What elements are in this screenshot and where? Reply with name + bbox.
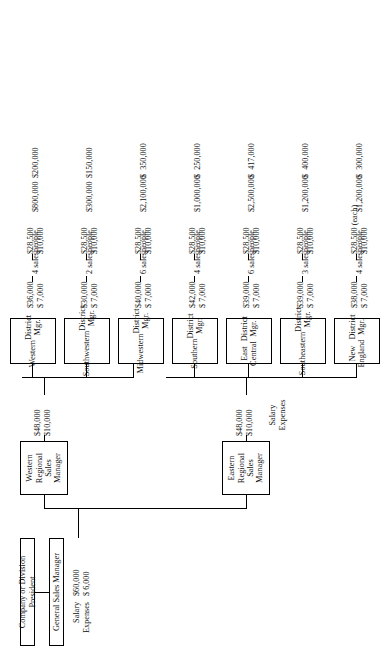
district-2-mgr-expenses: $ 7,000 (252, 283, 262, 308)
connector-western-region-to-bus (44, 377, 45, 395)
district-0-mgr-salary: $38,000 (350, 281, 360, 308)
district-5-mgr-salary: $30,000 (80, 281, 90, 308)
tick-mark (140, 276, 141, 282)
district-5-sales-total: $300,000 (85, 181, 95, 212)
district-0-mgr-expenses: $ 7,000 (360, 283, 370, 308)
box-president: Company or Division President (20, 538, 35, 646)
connector-bus-to-district-east-central (248, 364, 249, 378)
box-district-southeastern: SoutheasternDistrict Mgr. (280, 318, 326, 364)
district-1-sales-total: $1,200,000 (301, 175, 311, 212)
district-4-mgr-salary: $40,000 (134, 281, 144, 308)
western-region-expenses-value: $10,000 (43, 394, 53, 436)
district-6-average-per-salesperson: $200,000 (31, 147, 41, 178)
box-western-regional-manager: Western RegionalSales Manager (20, 441, 68, 495)
tick-mark (194, 276, 195, 282)
district-4-sales-total: $2,100,000 (139, 175, 149, 212)
box-district-western: WesternDistrict Mgr. (10, 318, 56, 364)
district-1-average-per-salesperson: $ 400,000 (301, 143, 311, 178)
eastern-region-expenses-value: $10,000 (245, 394, 255, 436)
eastern-region-salary-expenses-labels: Salary Expenses (268, 392, 287, 438)
box-district-southwestern: SouthwesternDistrict Mgr. (64, 318, 110, 364)
district-2-mgr-salary: $39,000 (242, 281, 252, 308)
western-district-bus (22, 377, 134, 378)
district-3-salesperson-salary: $28,500 (188, 227, 198, 254)
connector-bus-to-district-southeastern (302, 364, 303, 378)
box-eastern-regional-manager: Eastern RegionalSales Manager (222, 441, 270, 495)
tick-mark (356, 254, 357, 260)
box-district-east-central: East CentralDistrict Mgr. (226, 318, 272, 364)
general-sales-manager-label: General Sales Manager (52, 553, 61, 631)
district-1-mgr-salary: $39,000 (296, 281, 306, 308)
tick-mark (32, 254, 33, 260)
box-district-southern: SouthernDistrict Mgr. (172, 318, 218, 364)
connector-gsm-to-region-bus (78, 508, 79, 538)
gsm-salary-expenses-labels: Salary Expenses (72, 602, 91, 654)
tick-mark (86, 276, 87, 282)
district-5-salesperson-expenses: $10,000 (90, 227, 100, 254)
district-3-mgr-expenses: $ 7,000 (198, 283, 208, 308)
eastern-regional-manager-label: Eastern RegionalSales Manager (227, 444, 265, 492)
western-regional-manager-label: Western RegionalSales Manager (25, 444, 63, 492)
connector-bus-to-district-midwestern (133, 364, 134, 378)
connector-eastern-region-out (246, 435, 247, 441)
district-6-mgr-salary: $36,000 (26, 281, 36, 308)
eastern-region-salary-value: $48,000 (235, 394, 245, 436)
district-1-mgr-expenses: $ 7,000 (306, 283, 316, 308)
district-3-sales-total: $1,000,000 (193, 175, 203, 212)
connector-bus-to-district-southern (194, 364, 195, 378)
district-5-average-per-salesperson: $150,000 (85, 147, 95, 178)
org-chart-canvas: Company or Division President General Sa… (0, 0, 388, 660)
connector-president-to-gsm (35, 592, 49, 593)
district-5-salesperson-salary: $28,500 (80, 227, 90, 254)
tick-mark (302, 276, 303, 282)
connector-bus-to-eastern-region (246, 495, 247, 509)
box-district-new-england: New EnglandDistrict Mgr. (334, 318, 380, 364)
district-6-salesperson-expenses: $10,000 (36, 227, 46, 254)
district-0-sales-total: $1,200,000 (355, 175, 365, 212)
district-1-salesperson-salary: $28,500 (296, 227, 306, 254)
tick-mark (140, 254, 141, 260)
district-4-average-per-salesperson: $ 350,000 (139, 143, 149, 178)
org-chart: Company or Division President General Sa… (0, 0, 388, 660)
district-2-salesperson-expenses: $10,000 (252, 227, 262, 254)
district-4-salesperson-salary: $28,500 (134, 227, 144, 254)
district-4-mgr-expenses: $ 7,000 (144, 283, 154, 308)
district-0-salesperson-salary: $28,500 (each) (350, 205, 360, 254)
connector-bus-to-district-western (32, 364, 33, 378)
district-2-average-per-salesperson: $ 417,000 (247, 143, 257, 178)
box-district-midwestern: MidwesternDistrict Mgr. (118, 318, 164, 364)
tick-mark (302, 254, 303, 260)
district-6-sales-total: $800,000 (31, 181, 41, 212)
district-6-salesperson-salary: $28,500 (26, 227, 36, 254)
tick-mark (86, 254, 87, 260)
tick-mark (356, 276, 357, 282)
connector-bus-to-district-southwestern (86, 364, 87, 378)
tick-mark (32, 276, 33, 282)
tick-mark (248, 254, 249, 260)
district-3-mgr-salary: $42,000 (188, 281, 198, 308)
gsm-salary-value: $60,000 (72, 569, 82, 596)
district-4-salesperson-expenses: $10,000 (144, 227, 154, 254)
district-3-average-per-salesperson: $ 250,000 (193, 143, 203, 178)
district-0-salesperson-expenses: $10,000 (360, 227, 370, 254)
tick-mark (194, 254, 195, 260)
box-general-sales-manager: General Sales Manager (49, 538, 64, 646)
connector-bus-to-district-new-england (356, 364, 357, 378)
tick-mark (248, 276, 249, 282)
connector-bus-to-western-region (44, 495, 45, 509)
district-2-sales-total: $2,500,000 (247, 175, 257, 212)
district-1-salesperson-expenses: $10,000 (306, 227, 316, 254)
western-region-salary-value: $48,000 (33, 394, 43, 436)
district-2-salesperson-salary: $28,500 (242, 227, 252, 254)
connector-eastern-region-to-bus (246, 377, 247, 395)
region-bus-vertical (44, 508, 247, 509)
connector-western-region-out (44, 435, 45, 441)
district-6-mgr-expenses: $ 7,000 (36, 283, 46, 308)
district-0-average-per-salesperson: $ 300,000 (355, 143, 365, 178)
district-5-mgr-expenses: $ 7,000 (90, 283, 100, 308)
page-frame: Company or Division President General Sa… (0, 0, 388, 660)
gsm-expenses-value: $ 6,000 (82, 571, 92, 596)
district-3-salesperson-expenses: $10,000 (198, 227, 208, 254)
